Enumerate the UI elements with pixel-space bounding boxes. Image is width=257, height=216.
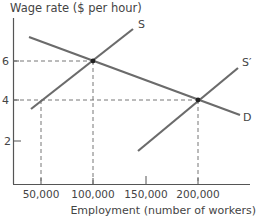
x-tick-label-200k: 200,000	[176, 188, 219, 200]
y-tick-label-6: 6	[2, 55, 9, 68]
curve-label-s-prime: S′	[242, 56, 252, 69]
equilibrium-point-2	[196, 98, 201, 103]
y-axis-title: Wage rate ($ per hour)	[10, 1, 142, 15]
x-tick-label-150k: 150,000	[124, 188, 167, 200]
y-tick-label-4: 4	[2, 94, 9, 107]
x-tick-label-100k: 100,000	[71, 188, 114, 200]
demand-curve-d	[29, 37, 240, 115]
x-tick-label-50k: 50,000	[23, 188, 60, 200]
curve-label-d: D	[243, 111, 251, 124]
y-tick-label-2: 2	[4, 135, 11, 148]
curve-label-s: S	[138, 18, 145, 31]
x-axis-title: Employment (number of workers)	[70, 204, 256, 216]
labor-market-chart: S S′ D 6 4 2 50,000 100,000 150,000 200,…	[0, 0, 257, 216]
equilibrium-point-1	[91, 59, 96, 64]
